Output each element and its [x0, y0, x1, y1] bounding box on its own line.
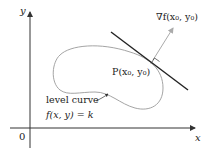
- point-label: P(x₀, y₀): [112, 66, 150, 77]
- origin-label: 0: [19, 131, 25, 142]
- level-curve-label: level curve: [46, 94, 99, 105]
- gradient-label: ∇f(x₀, y₀): [156, 11, 198, 22]
- gradient-arrow: [153, 28, 173, 60]
- level-curve-equation: f(x, y) = k: [45, 109, 94, 120]
- tangent-line: [111, 32, 188, 90]
- level-curve-diagram: y x 0 ∇f(x₀, y₀) P(x₀, y₀) level curve f…: [0, 0, 214, 155]
- y-axis-label: y: [19, 5, 26, 16]
- x-axis-label: x: [195, 132, 201, 143]
